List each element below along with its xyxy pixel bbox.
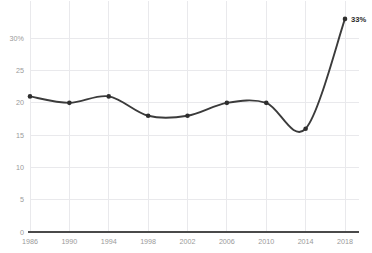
data-point-marker: [303, 126, 308, 131]
x-tick-label: 1990: [61, 237, 77, 246]
data-point-marker: [264, 101, 269, 106]
x-axis-tick-labels: 198619901994199820022006201020142018: [22, 237, 353, 246]
chart-canvas: 051015202530% 19861990199419982002200620…: [0, 0, 372, 253]
y-tick-label: 25: [16, 66, 24, 75]
line-chart: 051015202530% 19861990199419982002200620…: [0, 0, 372, 253]
x-tick-label: 2014: [298, 237, 314, 246]
y-tick-label: 5: [20, 195, 24, 204]
y-tick-label: 15: [16, 131, 24, 140]
data-point-marker: [185, 113, 190, 118]
data-point-marker: [67, 101, 72, 106]
data-point-marker: [225, 101, 230, 106]
final-value-label: 33%: [351, 15, 366, 24]
data-point-marker: [28, 94, 33, 99]
x-tick-label: 1994: [101, 237, 117, 246]
x-tick-label: 2018: [337, 237, 353, 246]
y-tick-label: 10: [16, 163, 24, 172]
x-tick-label: 2010: [258, 237, 274, 246]
y-tick-label: 0: [20, 228, 24, 237]
data-point-marker: [146, 113, 151, 118]
chart-annotations: 33%: [351, 15, 366, 24]
y-tick-label: 20: [16, 98, 24, 107]
x-tick-label: 2006: [219, 237, 235, 246]
x-tick-label: 1986: [22, 237, 38, 246]
x-tick-label: 1998: [140, 237, 156, 246]
data-point-marker: [343, 17, 348, 22]
data-point-marker: [106, 94, 111, 99]
x-tick-label: 2002: [180, 237, 196, 246]
y-tick-label: 30%: [10, 34, 25, 43]
